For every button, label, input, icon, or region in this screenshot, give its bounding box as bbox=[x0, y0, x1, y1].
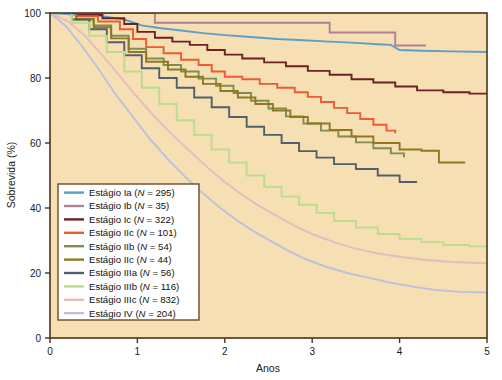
legend-label: Estágio Ib (N = 35) bbox=[89, 200, 169, 211]
x-tick-label: 2 bbox=[222, 346, 228, 357]
x-tick-label: 0 bbox=[47, 346, 53, 357]
x-tick-label: 4 bbox=[397, 346, 403, 357]
x-tick-label: 5 bbox=[484, 346, 490, 357]
chart-svg: 020406080100 012345 Sobrevida (%) Anos E… bbox=[0, 0, 502, 380]
legend-label: Estágio IIc (N = 101) bbox=[89, 227, 177, 238]
y-tick-label: 20 bbox=[30, 268, 42, 279]
x-axis-ticks: 012345 bbox=[47, 338, 490, 357]
y-axis-ticks: 020406080100 bbox=[24, 8, 50, 344]
y-tick-label: 100 bbox=[24, 8, 41, 19]
legend-label: Estágio IV (N = 204) bbox=[89, 308, 176, 319]
legend-label: Estágio IIb (N = 54) bbox=[89, 241, 172, 252]
y-axis-label: Sobrevida (%) bbox=[5, 142, 17, 209]
survival-chart-figure: 020406080100 012345 Sobrevida (%) Anos E… bbox=[0, 0, 502, 380]
legend-label: Estágio Ic (N = 322) bbox=[89, 214, 174, 225]
x-tick-label: 3 bbox=[309, 346, 315, 357]
y-tick-label: 0 bbox=[35, 333, 41, 344]
x-axis-label: Anos bbox=[256, 362, 280, 374]
legend-label: Estágio IIIc (N = 832) bbox=[89, 294, 179, 305]
legend-label: Estágio Ia (N = 295) bbox=[89, 187, 175, 198]
y-tick-label: 60 bbox=[30, 138, 42, 149]
y-tick-label: 40 bbox=[30, 203, 42, 214]
legend: Estágio Ia (N = 295)Estágio Ib (N = 35)E… bbox=[58, 184, 199, 320]
legend-label: Estágio IIIa (N = 56) bbox=[89, 267, 175, 278]
legend-label: Estágio IIIb (N = 116) bbox=[89, 281, 179, 292]
y-tick-label: 80 bbox=[30, 73, 42, 84]
x-tick-label: 1 bbox=[135, 346, 141, 357]
legend-label: Estágio IIc (N = 44) bbox=[89, 254, 171, 265]
